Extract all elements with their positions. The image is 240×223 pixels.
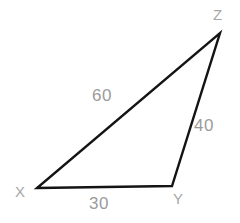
triangle-outline <box>37 33 220 188</box>
vertex-label-x: X <box>15 184 25 199</box>
side-label-xy: 30 <box>89 195 109 212</box>
triangle-shape <box>0 0 240 223</box>
side-label-xz: 60 <box>92 87 112 104</box>
vertex-label-y: Y <box>173 191 183 206</box>
triangle-figure: Z X Y 60 40 30 <box>0 0 240 223</box>
side-label-yz: 40 <box>194 117 214 134</box>
vertex-label-z: Z <box>213 7 222 22</box>
